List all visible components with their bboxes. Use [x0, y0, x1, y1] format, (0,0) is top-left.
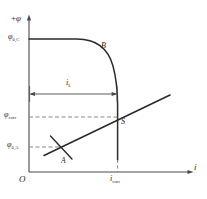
i-L-sub: L: [68, 83, 71, 88]
diagram-canvas: [0, 0, 207, 199]
limiting-current-arrow: [29, 86, 118, 102]
phi-corr-base: φ: [4, 110, 9, 119]
point-B-label: B: [101, 42, 106, 50]
limiting-current-label: iL: [66, 79, 71, 87]
phi-0-C-base: φ: [8, 32, 13, 41]
phi-0-C-sub: 0,C: [13, 37, 20, 42]
y-tick-label-phi-0-A: φ0,A: [7, 141, 19, 149]
y-axis-label: +φ: [11, 14, 21, 23]
y-tick-label-phi-0-C: φ0,C: [8, 33, 19, 41]
y-axis-arrowhead: [27, 15, 31, 21]
anodic-polarization-line: [44, 95, 170, 156]
x-tick-label-i-corr: icorr: [110, 175, 120, 183]
x-axis-label: i: [194, 163, 197, 172]
guide-lines-group: [29, 117, 118, 172]
phi-corr-sub: corr: [9, 115, 17, 120]
point-A-label: A: [61, 157, 66, 165]
y-tick-label-phi-corr: φcorr: [4, 111, 16, 119]
origin-label: O: [19, 175, 26, 184]
evans-polarization-diagram: +φ i O φ0,C φcorr φ0,A icorr iL B S A: [0, 0, 207, 199]
x-axis-arrowhead: [188, 170, 194, 174]
point-S-label: S: [121, 118, 125, 126]
i-corr-sub: corr: [112, 179, 120, 184]
phi-0-A-base: φ: [7, 140, 12, 149]
phi-0-A-sub: 0,A: [12, 145, 19, 150]
y-axis-symbol: φ: [16, 13, 21, 23]
